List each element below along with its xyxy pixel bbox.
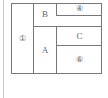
region-6-label: ⑥ [57,55,102,65]
margin-line [3,0,4,98]
region-4-label: ④ [57,4,102,14]
divider-row-c [56,45,102,46]
region-b-label: B [34,9,56,19]
divider-row-b [33,26,102,27]
box-4-bottom [56,15,102,16]
region-c-label: C [57,31,102,41]
region-1-label: ① [12,34,33,44]
region-a-label: A [34,45,56,55]
